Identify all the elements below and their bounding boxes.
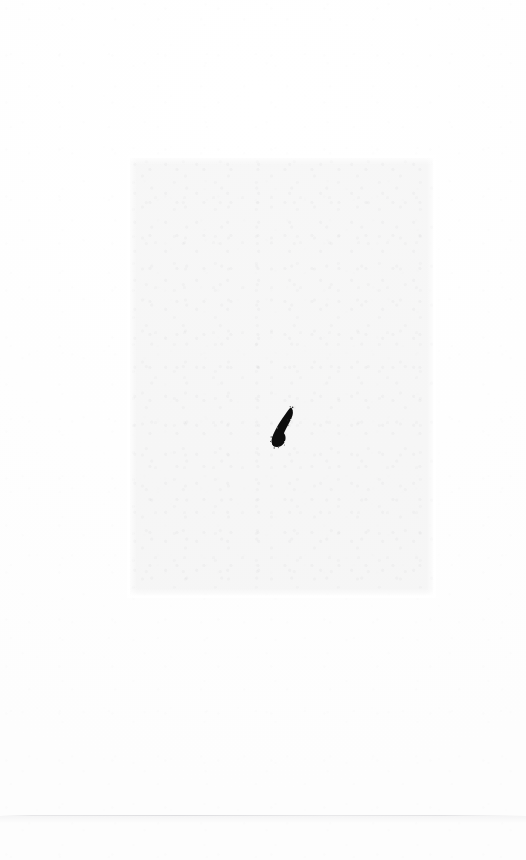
panel-edge-feather bbox=[127, 155, 436, 598]
paper-crease-shadow bbox=[0, 816, 526, 823]
ink-blob-mark bbox=[268, 404, 302, 454]
scanned-page bbox=[0, 0, 526, 860]
faint-scanned-panel bbox=[130, 158, 433, 595]
